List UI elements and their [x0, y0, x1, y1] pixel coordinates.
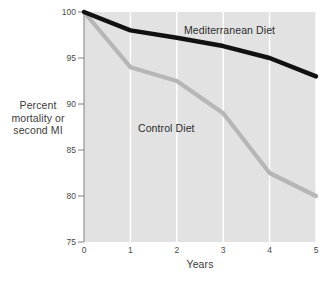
x-tick-label-5: 5 [309, 245, 323, 255]
chart-canvas [0, 0, 329, 281]
y-axis-title: Percent mortality or second MI [2, 99, 74, 137]
series-label-control-diet: Control Diet [138, 122, 195, 134]
x-axis-title: Years [152, 258, 248, 271]
y-axis-ticks [78, 12, 84, 242]
x-tick-label-0: 0 [77, 245, 91, 255]
plot-area-background [84, 12, 316, 242]
x-tick-label-2: 2 [170, 245, 184, 255]
y-tick-label-75: 75 [58, 237, 76, 247]
y-tick-label-80: 80 [58, 191, 76, 201]
y-tick-label-85: 85 [58, 145, 76, 155]
y-tick-label-100: 100 [58, 7, 76, 17]
x-tick-label-1: 1 [123, 245, 137, 255]
y-axis-title-line-2: mortality or [2, 112, 74, 125]
y-tick-label-95: 95 [58, 53, 76, 63]
y-axis-title-line-3: second MI [2, 124, 74, 137]
series-label-mediterranean-diet: Mediterranean Diet [184, 24, 275, 36]
y-axis-title-line-1: Percent [2, 99, 74, 112]
x-tick-label-4: 4 [263, 245, 277, 255]
x-tick-label-3: 3 [216, 245, 230, 255]
chart-figure: 100 95 90 85 80 75 0 1 2 3 4 5 Percent m… [0, 0, 329, 281]
